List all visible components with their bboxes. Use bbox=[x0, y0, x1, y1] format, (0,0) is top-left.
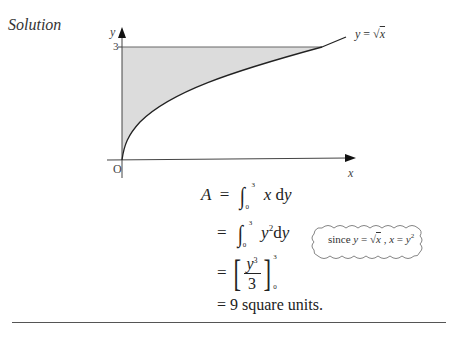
curve-label: y = √x bbox=[355, 27, 385, 42]
equation-line-3: = [y33] 3 0 bbox=[217, 252, 281, 294]
x-axis bbox=[107, 158, 348, 160]
fraction: y33 bbox=[244, 252, 261, 294]
y-axis-label: y bbox=[110, 25, 115, 40]
sqrt-symbol: √ bbox=[373, 27, 380, 41]
y-tick-3: 3 bbox=[113, 40, 119, 52]
note-text: since y = √x , x = y2 bbox=[328, 232, 414, 245]
origin-label: O bbox=[113, 162, 122, 177]
y-axis-arrow-icon bbox=[118, 27, 126, 38]
equation-line-2: = ∫ 3 0 y2dy bbox=[217, 222, 289, 246]
section-divider bbox=[12, 322, 446, 323]
shaded-area bbox=[122, 47, 322, 160]
x-axis-arrow-icon bbox=[345, 154, 356, 162]
x-axis-label: x bbox=[348, 166, 353, 181]
equation-line-1: A = ∫ 3 0 x dy bbox=[201, 184, 292, 208]
equation-line-4: = 9 square units. bbox=[217, 296, 323, 314]
